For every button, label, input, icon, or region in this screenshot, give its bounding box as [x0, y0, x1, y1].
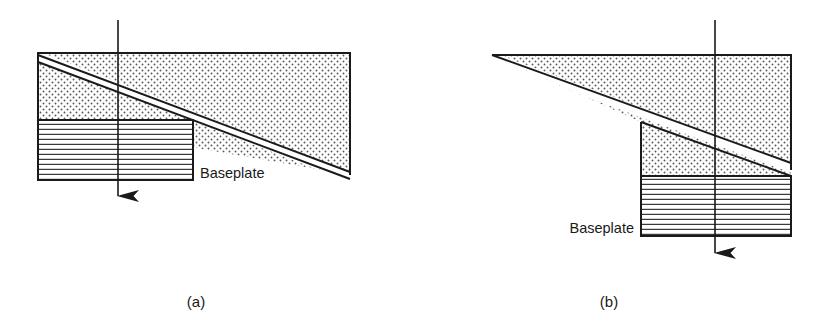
- panel-b-caption: (b): [600, 293, 618, 310]
- panel-b-baseplate-label: Baseplate: [570, 220, 635, 236]
- panel-b-baseplate: [641, 176, 791, 236]
- panel-a-caption: (a): [187, 293, 205, 310]
- panel-a-baseplate-hatch: [38, 120, 193, 180]
- figure-baseplate-wedge-diagram: Baseplate (a) Baseplate (b): [0, 0, 825, 328]
- panel-a-baseplate: [38, 120, 193, 180]
- panel-b-baseplate-hatch: [641, 176, 791, 236]
- panel-a-baseplate-label: Baseplate: [200, 165, 265, 181]
